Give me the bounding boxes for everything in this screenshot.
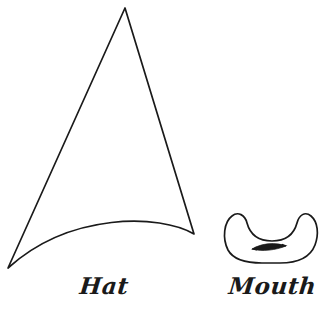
mouth-label: Mouth xyxy=(228,272,318,299)
pattern-drawing xyxy=(0,0,331,314)
pattern-sheet: Hat Mouth xyxy=(0,0,331,314)
hat-outline xyxy=(8,8,194,268)
hat-shape xyxy=(8,8,194,268)
mouth-outline xyxy=(225,214,318,263)
mouth-shape xyxy=(225,214,318,263)
hat-label: Hat xyxy=(79,272,131,299)
